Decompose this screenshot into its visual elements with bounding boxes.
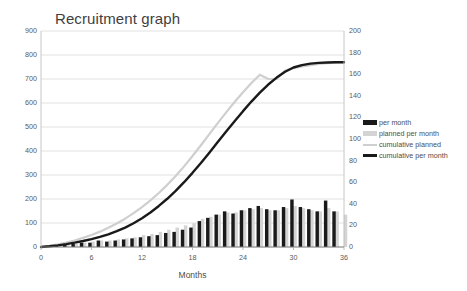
x-axis-title: Months bbox=[41, 270, 344, 280]
legend-item-planned-per-month: planned per month bbox=[363, 128, 467, 139]
x-axis-tick-label: 24 bbox=[231, 254, 255, 261]
x-axis-tick-label: 12 bbox=[130, 254, 154, 261]
legend-item-cumulative-per-month: cumulative per month bbox=[363, 150, 467, 161]
chart-legend: per month planned per month cumulative p… bbox=[363, 117, 467, 161]
legend-label: cumulative planned bbox=[379, 141, 441, 148]
legend-swatch-bar-icon bbox=[363, 128, 377, 139]
x-axis-tick-label: 36 bbox=[332, 254, 356, 261]
x-axis-tick-label: 0 bbox=[29, 254, 53, 261]
legend-label: per month bbox=[379, 119, 411, 126]
legend-label: planned per month bbox=[379, 130, 439, 137]
legend-swatch-line-icon bbox=[363, 139, 377, 150]
x-axis-tick-label: 6 bbox=[80, 254, 104, 261]
x-axis-tick-label: 18 bbox=[181, 254, 205, 261]
legend-swatch-line-icon bbox=[363, 150, 377, 161]
x-axis-tick-label: 30 bbox=[282, 254, 306, 261]
legend-swatch-bar-icon bbox=[363, 117, 377, 128]
recruitment-chart: Recruitment graph 0100200300400500600700… bbox=[0, 0, 467, 291]
legend-item-cumulative-planned: cumulative planned bbox=[363, 139, 467, 150]
legend-item-per-month: per month bbox=[363, 117, 467, 128]
legend-label: cumulative per month bbox=[379, 152, 448, 159]
